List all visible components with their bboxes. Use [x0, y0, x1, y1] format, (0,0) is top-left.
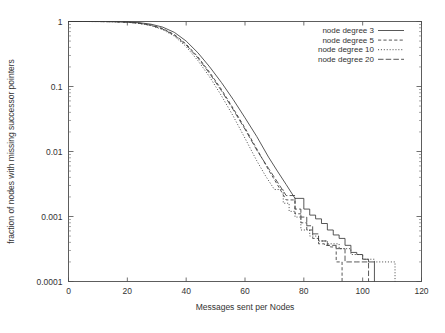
y-tick-label-2: 0.01 [46, 147, 63, 157]
x-tick-label-0: 0 [66, 286, 71, 296]
legend-label-3: node degree 20 [318, 55, 375, 64]
y-tick-label-0: 1 [58, 17, 63, 27]
caption-ghost [0, 323, 445, 333]
series-line-node-degree-5 [69, 22, 343, 282]
y-tick-label-3: 0.001 [41, 212, 63, 222]
x-tick-label-40: 40 [181, 286, 191, 296]
y-tick-label-1: 0.1 [51, 82, 63, 92]
y-axis-title: fraction of nodes with missing successor… [6, 59, 16, 244]
legend-label-1: node degree 5 [322, 36, 374, 45]
legend-label-0: node degree 3 [322, 26, 374, 35]
legend-label-2: node degree 10 [318, 45, 375, 54]
x-tick-label-20: 20 [123, 286, 133, 296]
x-tick-label-60: 60 [240, 286, 250, 296]
line-chart-svg: 02040608010012010.10.010.0010.0001Messag… [0, 0, 445, 333]
x-tick-label-80: 80 [299, 286, 309, 296]
x-tick-label-120: 120 [414, 286, 428, 296]
chart-figure: 02040608010012010.10.010.0010.0001Messag… [0, 0, 445, 333]
y-tick-label-4: 0.0001 [37, 277, 63, 287]
x-axis-title: Messages sent per Nodes [196, 302, 295, 312]
x-tick-label-100: 100 [356, 286, 370, 296]
